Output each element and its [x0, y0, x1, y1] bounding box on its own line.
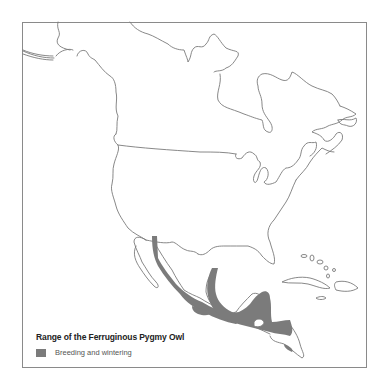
legend-label: Breeding and wintering — [55, 348, 132, 357]
arctic-archipelago — [130, 22, 238, 72]
legend-title: Range of the Ferruginous Pygmy Owl — [36, 332, 184, 342]
legend-item: Breeding and wintering — [36, 348, 184, 357]
map-legend: Range of the Ferruginous Pygmy Owl Breed… — [36, 332, 184, 357]
bahamas-1 — [301, 255, 307, 258]
hispaniola — [335, 281, 359, 291]
gulf-coast — [198, 180, 296, 264]
range-area-south — [284, 344, 293, 352]
newfoundland-coast — [338, 118, 357, 126]
cuba — [282, 277, 330, 288]
bahamas-4 — [324, 266, 328, 270]
great-lakes — [235, 142, 316, 184]
bahamas-2 — [310, 255, 314, 261]
range-gap — [254, 319, 264, 327]
range-map — [0, 0, 384, 388]
us-canada-border — [118, 145, 236, 154]
legend-swatch — [36, 349, 46, 357]
bahamas-6 — [327, 274, 330, 278]
labrador-coast — [312, 106, 356, 154]
bahamas-3 — [317, 260, 323, 264]
bahamas-5 — [333, 269, 336, 272]
range-area-gulf — [207, 268, 292, 336]
hudson-bay-coast — [218, 72, 340, 132]
jamaica — [316, 297, 326, 300]
pacific-coast — [111, 134, 146, 240]
alaska-coast — [23, 22, 118, 134]
